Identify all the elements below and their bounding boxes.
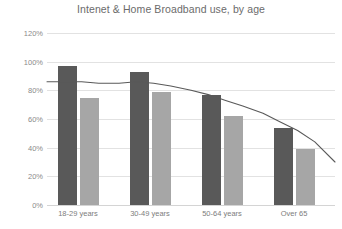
x-axis-tick-label: Over 65 bbox=[281, 209, 308, 218]
x-axis-tick-label: 30-49 years bbox=[130, 209, 170, 218]
line-series bbox=[47, 33, 335, 205]
y-axis-tick-label: 100% bbox=[3, 57, 43, 66]
chart-container: Intenet & Home Broadband use, by age 0%2… bbox=[0, 0, 342, 229]
y-axis-tick-label: 40% bbox=[3, 143, 43, 152]
y-axis-tick-label: 0% bbox=[3, 201, 43, 210]
plot-area bbox=[47, 33, 335, 205]
y-axis-tick-label: 20% bbox=[3, 172, 43, 181]
x-axis-tick-label: 18-29 years bbox=[58, 209, 98, 218]
y-axis-tick-label: 120% bbox=[3, 29, 43, 38]
y-axis-tick-label: 80% bbox=[3, 86, 43, 95]
y-axis-tick-label: 60% bbox=[3, 115, 43, 124]
gridline bbox=[47, 205, 335, 206]
chart-title: Intenet & Home Broadband use, by age bbox=[0, 3, 342, 15]
x-axis-tick-label: 50-64 years bbox=[202, 209, 242, 218]
trend-line-path bbox=[47, 82, 335, 162]
